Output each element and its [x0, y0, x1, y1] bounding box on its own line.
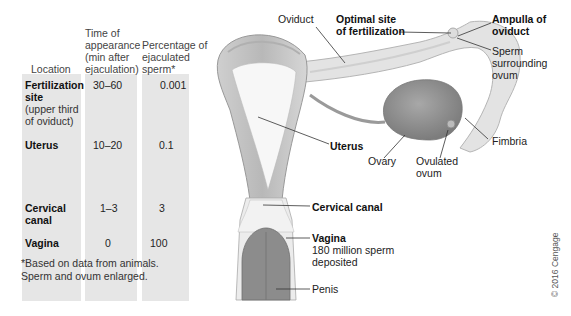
label-ovary: Ovary	[368, 155, 396, 167]
label-fimbria: Fimbria	[492, 135, 527, 147]
label-ampulla-of-oviduct: Ampulla of oviduct	[492, 13, 546, 37]
label-penis: Penis	[312, 283, 338, 295]
label-oviduct: Oviduct	[278, 13, 314, 25]
ovary-shape	[383, 80, 462, 140]
reproductive-tract-illustration	[0, 0, 571, 316]
label-cervical-canal: Cervical canal	[312, 201, 383, 213]
label-uterus: Uterus	[330, 140, 363, 152]
copyright-notice: © 2016 Cengage	[550, 233, 560, 297]
label-sperm-surrounding-ovum: Sperm surrounding ovum	[492, 45, 547, 81]
label-vagina: Vagina 180 million sperm deposited	[312, 232, 394, 268]
label-ovulated-ovum: Ovulated ovum	[416, 155, 458, 179]
uterus-shape	[217, 35, 307, 200]
ovulated-ovum-shape	[447, 120, 455, 128]
label-optimal-site: Optimal site of fertilization	[336, 13, 405, 37]
